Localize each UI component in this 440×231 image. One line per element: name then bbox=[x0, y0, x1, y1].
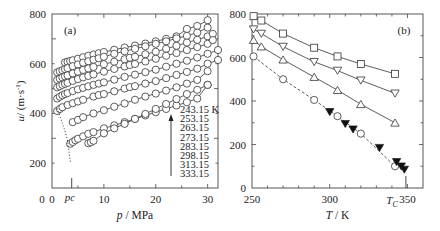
data-point-circle bbox=[173, 35, 180, 42]
data-point-square bbox=[392, 70, 399, 77]
data-point-circle bbox=[183, 32, 190, 39]
series-line bbox=[254, 16, 395, 74]
data-point-square bbox=[258, 17, 265, 24]
data-point-circle bbox=[152, 55, 159, 62]
data-point-circle bbox=[90, 71, 97, 78]
data-point-circle bbox=[204, 17, 211, 24]
data-point-square bbox=[311, 44, 318, 51]
data-point-square bbox=[334, 53, 341, 60]
data-point-circle bbox=[194, 29, 201, 36]
data-point-circle bbox=[173, 60, 180, 67]
data-point-up-triangle bbox=[279, 56, 287, 63]
data-point-circle bbox=[194, 86, 201, 93]
data-point-up-triangle bbox=[249, 36, 257, 43]
data-point-circle bbox=[121, 73, 128, 80]
data-point-circle bbox=[152, 40, 159, 47]
data-point-circle bbox=[100, 107, 107, 114]
data-point-circle bbox=[194, 22, 201, 29]
data-point-circle bbox=[100, 79, 107, 86]
y-tick-label: 400 bbox=[30, 107, 47, 119]
data-point-circle bbox=[131, 60, 138, 67]
origin-label: 0 bbox=[39, 193, 45, 205]
data-point-down-triangle bbox=[391, 90, 399, 97]
data-point-circle bbox=[142, 51, 149, 58]
data-point-up-triangle bbox=[357, 100, 365, 107]
x-tick-label: 20 bbox=[150, 193, 162, 205]
data-point-circle bbox=[183, 46, 190, 53]
data-point-circle bbox=[194, 76, 201, 83]
legend-arrow-head bbox=[169, 114, 174, 121]
data-point-up-triangle bbox=[310, 73, 318, 80]
data-point-circle bbox=[214, 56, 221, 63]
data-point-circle bbox=[204, 81, 211, 88]
legend-entry: 333.15 bbox=[180, 168, 209, 179]
panel-a-chart: 2004006008000102030(a)p / MPa0u/ (m·s-1)… bbox=[14, 8, 222, 222]
data-point-circle bbox=[121, 100, 128, 107]
data-point-circle bbox=[100, 53, 107, 60]
data-point-down-triangle bbox=[357, 77, 365, 84]
data-point-circle bbox=[163, 87, 170, 94]
data-point-circle bbox=[204, 50, 211, 57]
data-point-filled-down-triangle bbox=[349, 126, 357, 133]
y-tick-label: 800 bbox=[30, 8, 47, 20]
data-point-circle bbox=[357, 130, 364, 137]
data-point-filled-down-triangle bbox=[375, 144, 383, 151]
data-point-circle bbox=[111, 65, 118, 72]
data-point-circle bbox=[111, 103, 118, 110]
y-tick-label: 800 bbox=[230, 8, 247, 20]
data-point-circle bbox=[183, 80, 190, 87]
data-point-circle bbox=[100, 68, 107, 75]
data-point-circle bbox=[183, 25, 190, 32]
data-point-circle bbox=[100, 130, 107, 137]
x-tick-label: 350 bbox=[399, 193, 416, 205]
data-point-circle bbox=[80, 114, 87, 121]
x-tick-label: 0 bbox=[49, 193, 55, 205]
data-point-circle bbox=[142, 80, 149, 87]
data-point-circle bbox=[194, 95, 201, 102]
x-axis-label: p / MPa bbox=[116, 209, 153, 222]
data-point-circle bbox=[173, 42, 180, 49]
panel-label: (a) bbox=[64, 24, 77, 37]
data-point-circle bbox=[194, 36, 201, 43]
y-tick-label: 600 bbox=[30, 58, 47, 70]
data-point-circle bbox=[194, 43, 201, 50]
y-axis-label: u/ (m·s-1) bbox=[14, 80, 27, 121]
data-point-circle bbox=[111, 88, 118, 95]
x-tick-label: 300 bbox=[321, 193, 338, 205]
data-point-circle bbox=[131, 115, 138, 122]
data-point-down-triangle bbox=[333, 67, 341, 74]
series-line bbox=[57, 108, 70, 163]
data-point-circle bbox=[194, 65, 201, 72]
data-point-circle bbox=[334, 113, 341, 120]
data-point-up-triangle bbox=[333, 86, 341, 93]
data-point-down-triangle bbox=[257, 30, 265, 37]
y-tick-label: 600 bbox=[230, 52, 247, 64]
x-tick-label: 250 bbox=[244, 193, 261, 205]
data-point-circle bbox=[152, 78, 159, 85]
data-point-circle bbox=[152, 66, 159, 73]
data-point-circle bbox=[163, 38, 170, 45]
data-point-circle bbox=[204, 24, 211, 31]
data-point-circle bbox=[163, 63, 170, 70]
data-point-circle bbox=[131, 96, 138, 103]
data-point-up-triangle bbox=[391, 119, 399, 126]
data-point-circle bbox=[90, 110, 97, 117]
data-point-circle bbox=[142, 93, 149, 100]
pc-label: pc bbox=[64, 191, 76, 203]
panel-b-chart: 0200400600800250300350(b)T / KTC bbox=[230, 8, 424, 221]
data-point-circle bbox=[142, 58, 149, 65]
data-point-circle bbox=[152, 48, 159, 55]
data-point-circle bbox=[204, 68, 211, 75]
legend: 243.15 K253.15263.15273.15283.15298.1531… bbox=[169, 104, 220, 179]
data-point-circle bbox=[121, 120, 128, 127]
panel-label: (b) bbox=[398, 24, 411, 37]
data-point-circle bbox=[209, 37, 216, 44]
data-point-circle bbox=[163, 100, 170, 107]
data-point-circle bbox=[131, 71, 138, 78]
data-point-circle bbox=[173, 84, 180, 91]
data-point-circle bbox=[111, 125, 118, 132]
data-point-square bbox=[280, 30, 287, 37]
data-point-circle bbox=[111, 50, 118, 57]
data-point-circle bbox=[173, 49, 180, 56]
data-point-circle bbox=[100, 61, 107, 68]
